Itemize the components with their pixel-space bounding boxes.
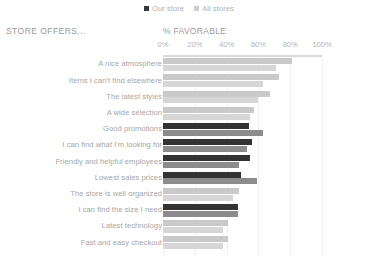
category-label: Friendly and helpful employees: [55, 157, 162, 167]
x-axis-tick-label: 100%: [312, 40, 331, 49]
bar-our-store[interactable]: [163, 74, 279, 80]
bar-all-stores[interactable]: [163, 162, 239, 168]
bar-our-store[interactable]: [163, 139, 252, 145]
bar-group: [163, 58, 322, 72]
legend-item-all-stores[interactable]: All stores: [194, 4, 234, 13]
x-axis-tick-label: 80%: [283, 40, 298, 49]
bar-group: [163, 139, 322, 153]
bar-our-store[interactable]: [163, 107, 254, 113]
chart-header: STORE OFFERS... % FAVORABLE: [0, 26, 378, 38]
bar-group: [163, 236, 322, 250]
chart-row[interactable]: I can find what I'm looking for: [0, 138, 378, 154]
bar-our-store[interactable]: [163, 220, 228, 226]
legend-label: All stores: [202, 4, 234, 13]
category-label: I can find what I'm looking for: [62, 140, 162, 150]
bar-all-stores[interactable]: [163, 65, 276, 71]
chart-row[interactable]: A wide selection: [0, 106, 378, 122]
chart-row[interactable]: Friendly and helpful employees: [0, 154, 378, 170]
bar-group: [163, 74, 322, 88]
chart-row[interactable]: Lowest sales prices: [0, 170, 378, 186]
chart-row[interactable]: Items I can't find elsewhere: [0, 73, 378, 89]
bar-our-store[interactable]: [163, 172, 241, 178]
chart-legend: Our store All stores: [0, 2, 378, 14]
category-label: Fast and easy checkout: [81, 238, 162, 248]
category-label: Items I can't find elsewhere: [69, 76, 162, 86]
bar-all-stores[interactable]: [163, 178, 257, 184]
square-swatch-icon: [144, 6, 149, 11]
category-label: A wide selection: [107, 108, 162, 118]
x-axis-tick-label: 40%: [219, 40, 234, 49]
category-label: The latest styles: [106, 92, 162, 102]
x-axis-tick-label: 20%: [187, 40, 202, 49]
x-axis-tick-labels: 0%20%40%60%80%100%: [0, 40, 378, 51]
bar-group: [163, 204, 322, 218]
legend-label: Our store: [152, 4, 184, 13]
category-label: The store is well organized: [70, 189, 162, 199]
bar-all-stores[interactable]: [163, 243, 223, 249]
chart-plot-area: A nice atmosphereItems I can't find else…: [0, 57, 378, 257]
bar-all-stores[interactable]: [163, 146, 247, 152]
x-axis-tick-label: 0%: [158, 40, 169, 49]
bar-group: [163, 220, 322, 234]
category-label: Latest technology: [102, 221, 162, 231]
bar-our-store[interactable]: [163, 123, 249, 129]
bar-group: [163, 106, 322, 120]
bar-our-store[interactable]: [163, 155, 250, 161]
bar-all-stores[interactable]: [163, 211, 238, 217]
bar-our-store[interactable]: [163, 91, 270, 97]
bar-group: [163, 171, 322, 185]
category-label: I can find the size I need: [78, 205, 162, 215]
x-axis-tick-label: 60%: [251, 40, 266, 49]
bar-group: [163, 90, 322, 104]
square-swatch-icon: [194, 6, 199, 11]
bar-our-store[interactable]: [163, 58, 292, 64]
legend-item-our-store[interactable]: Our store: [144, 4, 184, 13]
bar-our-store[interactable]: [163, 204, 238, 210]
bar-group: [163, 187, 322, 201]
bar-our-store[interactable]: [163, 188, 239, 194]
category-label: Good promotions: [103, 124, 162, 134]
bar-all-stores[interactable]: [163, 227, 223, 233]
chart-row[interactable]: The latest styles: [0, 89, 378, 105]
bar-group: [163, 123, 322, 137]
bar-all-stores[interactable]: [163, 195, 233, 201]
chart-row[interactable]: Good promotions: [0, 122, 378, 138]
bar-all-stores[interactable]: [163, 97, 258, 103]
bar-group: [163, 155, 322, 169]
chart-row[interactable]: I can find the size I need: [0, 203, 378, 219]
chart-row[interactable]: The store is well organized: [0, 187, 378, 203]
bar-all-stores[interactable]: [163, 130, 263, 136]
axis-title-percent-favorable: % FAVORABLE: [163, 26, 226, 36]
chart-row[interactable]: A nice atmosphere: [0, 57, 378, 73]
chart-row[interactable]: Fast and easy checkout: [0, 235, 378, 251]
section-title-store-offers: STORE OFFERS...: [6, 26, 86, 36]
bar-all-stores[interactable]: [163, 114, 250, 120]
bar-all-stores[interactable]: [163, 81, 263, 87]
chart-row[interactable]: Latest technology: [0, 219, 378, 235]
category-label: Lowest sales prices: [95, 173, 162, 183]
category-label: A nice atmosphere: [98, 59, 162, 69]
bar-our-store[interactable]: [163, 236, 228, 242]
